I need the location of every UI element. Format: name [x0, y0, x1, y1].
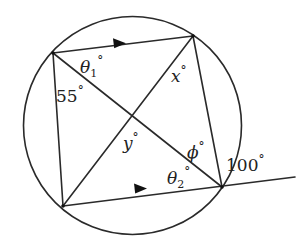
- circumcircle: [24, 17, 242, 235]
- side-AB: [53, 36, 193, 53]
- vertex-A: [51, 51, 55, 55]
- diagonal-AC: [53, 53, 222, 187]
- label-theta1: θ1°: [80, 54, 103, 80]
- label-theta2: θ2°: [167, 165, 190, 191]
- cyclic-quadrilateral-diagram: θ1° 55° x° y° ϕ° θ2° 100°: [0, 0, 302, 244]
- label-phi: ϕ°: [187, 140, 205, 162]
- parallel-arrow-icon-top: [113, 38, 126, 48]
- side-AD: [53, 53, 63, 206]
- label-100: 100°: [226, 153, 264, 175]
- vertex-C: [220, 185, 224, 189]
- parallel-arrow-icon-bottom: [134, 184, 147, 194]
- vertex-B: [191, 34, 195, 38]
- label-x: x°: [171, 64, 187, 86]
- label-55: 55°: [56, 84, 84, 106]
- vertex-D: [61, 204, 65, 208]
- label-y: y°: [122, 131, 139, 153]
